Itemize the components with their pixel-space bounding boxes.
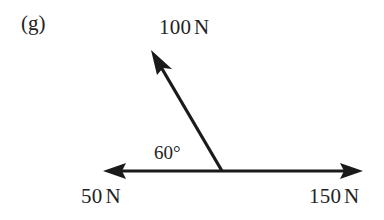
force-label-100n-value: 100	[159, 15, 191, 39]
force-diagram-figure: (g) 100N 60° 50N 150N	[0, 0, 384, 220]
force-label-150n: 150N	[309, 186, 359, 207]
force-label-50n-value: 50	[81, 184, 102, 208]
panel-letter-label: (g)	[21, 13, 46, 34]
force-label-50n: 50N	[81, 186, 121, 207]
angle-label-60deg: 60°	[154, 143, 181, 162]
force-label-50n-unit: N	[105, 184, 120, 208]
force-label-100n: 100N	[159, 17, 209, 38]
force-label-100n-unit: N	[194, 15, 209, 39]
force-label-150n-value: 150	[309, 184, 341, 208]
diagonal-arrowhead-icon	[151, 50, 172, 75]
force-label-150n-unit: N	[344, 184, 359, 208]
